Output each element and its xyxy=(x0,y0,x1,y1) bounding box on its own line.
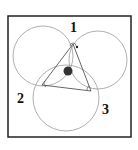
marker-dot xyxy=(76,46,78,48)
vertex-label-2: 2 xyxy=(17,91,24,106)
vertex-label-1: 1 xyxy=(70,20,77,35)
vertex-label-3: 3 xyxy=(102,102,109,117)
diagram-canvas: 1 2 3 xyxy=(0,0,138,150)
center-dot xyxy=(64,67,73,76)
circle-right xyxy=(69,31,127,89)
